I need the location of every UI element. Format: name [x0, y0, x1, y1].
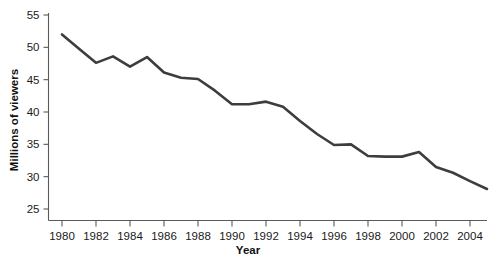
x-tick-label: 1994	[287, 230, 313, 242]
x-tick-label: 1984	[117, 230, 143, 242]
x-tick-label: 2000	[389, 230, 415, 242]
x-tick-label: 1986	[151, 230, 177, 242]
chart-svg: Millions of viewers 25303540455055 19801…	[0, 0, 492, 262]
y-tick-label: 50	[27, 41, 40, 53]
y-tick-label: 55	[27, 9, 40, 21]
y-tick-label: 25	[27, 203, 40, 215]
x-tick-label: 2004	[457, 230, 483, 242]
y-tick-label: 30	[27, 171, 40, 183]
y-tick-label: 35	[27, 138, 40, 150]
y-tick-label: 40	[27, 106, 40, 118]
y-tick-label: 45	[27, 74, 40, 86]
data-series-line	[62, 34, 487, 189]
x-tick-label: 1982	[83, 230, 109, 242]
x-tick-label: 2002	[423, 230, 449, 242]
line-chart: Millions of viewers 25303540455055 19801…	[0, 0, 492, 262]
x-tick-label: 1998	[355, 230, 381, 242]
y-axis-title: Millions of viewers	[8, 69, 20, 171]
x-tick-label: 1990	[219, 230, 245, 242]
x-axis-title: Year	[236, 244, 261, 256]
y-axis-ticks: 25303540455055	[27, 9, 49, 215]
x-axis-ticks: 1980198219841986198819901992199419961998…	[49, 221, 483, 242]
x-tick-label: 1988	[185, 230, 211, 242]
x-tick-label: 1980	[49, 230, 75, 242]
x-tick-label: 1992	[253, 230, 279, 242]
x-tick-label: 1996	[321, 230, 347, 242]
